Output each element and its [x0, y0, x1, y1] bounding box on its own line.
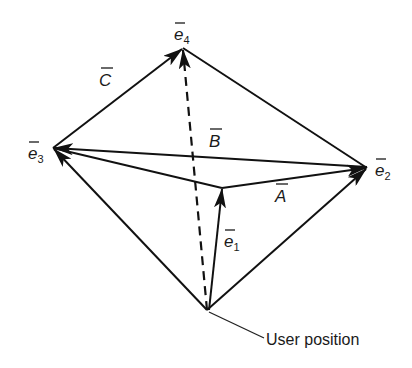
svg-text:e2: e2 — [375, 161, 391, 182]
label-C: C — [99, 68, 113, 90]
edge-user-to-e3 — [54, 149, 207, 310]
label-B: B — [209, 129, 222, 151]
vector-e1 — [209, 189, 222, 310]
vector-C — [53, 49, 182, 148]
svg-text:C: C — [99, 71, 112, 90]
label-e2: e2 — [375, 159, 391, 182]
svg-text:e3: e3 — [28, 144, 44, 165]
svg-text:A: A — [274, 187, 286, 206]
svg-text:B: B — [209, 132, 220, 151]
label-e4: e4 — [174, 23, 190, 46]
svg-text:e1: e1 — [224, 232, 240, 253]
label-e1: e1 — [224, 230, 240, 253]
vector-A — [222, 168, 366, 188]
label-e3: e3 — [28, 142, 44, 165]
svg-text:e4: e4 — [174, 25, 190, 46]
label-A: A — [274, 184, 288, 206]
label-user-position: User position — [266, 331, 359, 348]
vector-diagram: e4 e3 e2 e1 A B C User position — [0, 0, 412, 368]
user-position-leader — [209, 312, 264, 338]
